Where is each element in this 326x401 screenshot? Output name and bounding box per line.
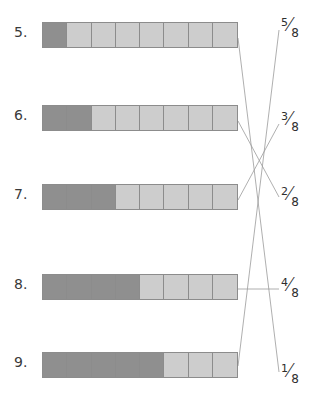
worksheet-row: 6. xyxy=(0,105,326,135)
worksheet-row: 8. xyxy=(0,274,326,304)
row-number: 9. xyxy=(14,354,38,370)
fraction-cell[interactable] xyxy=(67,353,91,377)
row-number: 7. xyxy=(14,186,38,202)
worksheet-row: 9. xyxy=(0,352,326,382)
fraction-cell[interactable] xyxy=(116,275,140,299)
fraction-cell[interactable] xyxy=(67,275,91,299)
fraction-cell[interactable] xyxy=(116,185,140,209)
fraction-cell[interactable] xyxy=(189,23,213,47)
fraction-label[interactable]: 3⁄8 xyxy=(281,108,299,131)
fraction-cell[interactable] xyxy=(92,23,116,47)
fraction-label[interactable]: 4⁄8 xyxy=(281,274,299,297)
row-number: 5. xyxy=(14,24,38,40)
fraction-cell[interactable] xyxy=(140,275,164,299)
fraction-cell[interactable] xyxy=(43,23,67,47)
fraction-numerator: 2 xyxy=(281,185,288,198)
fraction-bar[interactable] xyxy=(42,184,238,210)
fraction-numerator: 3 xyxy=(281,110,288,123)
fraction-denominator: 8 xyxy=(291,372,299,386)
fraction-denominator: 8 xyxy=(291,26,299,40)
fraction-cell[interactable] xyxy=(189,106,213,130)
fraction-cell[interactable] xyxy=(164,353,188,377)
fraction-denominator: 8 xyxy=(291,195,299,209)
fraction-cell[interactable] xyxy=(140,185,164,209)
fraction-cell[interactable] xyxy=(164,23,188,47)
fraction-cell[interactable] xyxy=(189,185,213,209)
fraction-cell[interactable] xyxy=(67,106,91,130)
fraction-cell[interactable] xyxy=(213,23,237,47)
fraction-cell[interactable] xyxy=(164,106,188,130)
fraction-label[interactable]: 1⁄8 xyxy=(281,360,299,383)
fraction-cell[interactable] xyxy=(164,185,188,209)
fraction-cell[interactable] xyxy=(213,353,237,377)
fraction-cell[interactable] xyxy=(189,275,213,299)
fraction-cell[interactable] xyxy=(92,106,116,130)
worksheet-row: 7. xyxy=(0,184,326,214)
fraction-denominator: 8 xyxy=(291,286,299,300)
fraction-cell[interactable] xyxy=(140,353,164,377)
row-number: 8. xyxy=(14,276,38,292)
fraction-cell[interactable] xyxy=(213,106,237,130)
fraction-cell[interactable] xyxy=(43,106,67,130)
fraction-cell[interactable] xyxy=(116,106,140,130)
fraction-cell[interactable] xyxy=(213,185,237,209)
fraction-cell[interactable] xyxy=(213,275,237,299)
fraction-cell[interactable] xyxy=(67,185,91,209)
fraction-numerator: 5 xyxy=(281,16,288,29)
fraction-cell[interactable] xyxy=(67,23,91,47)
fraction-matching-worksheet: 5. 6. 7. 8. 9. 5⁄8 3⁄8 2⁄8 4⁄8 1⁄8 xyxy=(0,0,326,401)
fraction-cell[interactable] xyxy=(116,23,140,47)
fraction-cell[interactable] xyxy=(43,185,67,209)
fraction-numerator: 1 xyxy=(281,362,288,375)
fraction-cell[interactable] xyxy=(140,23,164,47)
fraction-bar[interactable] xyxy=(42,274,238,300)
fraction-bar[interactable] xyxy=(42,352,238,378)
fraction-cell[interactable] xyxy=(43,353,67,377)
fraction-cell[interactable] xyxy=(116,353,140,377)
worksheet-row: 5. xyxy=(0,22,326,52)
fraction-denominator: 8 xyxy=(291,120,299,134)
fraction-cell[interactable] xyxy=(92,185,116,209)
fraction-numerator: 4 xyxy=(281,276,288,289)
fraction-cell[interactable] xyxy=(164,275,188,299)
fraction-bar[interactable] xyxy=(42,22,238,48)
fraction-label[interactable]: 5⁄8 xyxy=(281,14,299,37)
fraction-cell[interactable] xyxy=(189,353,213,377)
fraction-label[interactable]: 2⁄8 xyxy=(281,183,299,206)
row-number: 6. xyxy=(14,107,38,123)
fraction-cell[interactable] xyxy=(92,353,116,377)
fraction-cell[interactable] xyxy=(92,275,116,299)
fraction-bar[interactable] xyxy=(42,105,238,131)
fraction-cell[interactable] xyxy=(43,275,67,299)
fraction-cell[interactable] xyxy=(140,106,164,130)
